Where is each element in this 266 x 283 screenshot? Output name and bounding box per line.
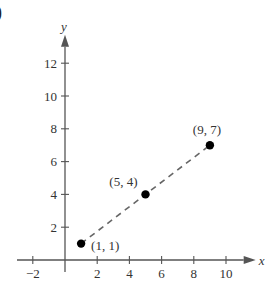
data-point bbox=[141, 190, 149, 198]
point-label: (5, 4) bbox=[109, 174, 137, 189]
x-tick-label: 2 bbox=[94, 266, 101, 281]
y-tick-label: 4 bbox=[51, 187, 58, 202]
point-label: (9, 7) bbox=[193, 122, 221, 137]
y-tick-label: 6 bbox=[51, 154, 58, 169]
x-tick-label: 10 bbox=[220, 266, 233, 281]
x-tick-label: 6 bbox=[158, 266, 165, 281]
y-axis-label: y bbox=[59, 19, 67, 34]
y-tick-label: 10 bbox=[44, 89, 57, 104]
x-tick-label: −2 bbox=[26, 266, 40, 281]
y-tick-label: 12 bbox=[44, 56, 57, 71]
y-tick-label: 2 bbox=[51, 220, 58, 235]
data-point bbox=[206, 141, 214, 149]
point-label: (1, 1) bbox=[91, 238, 119, 253]
x-tick-label: 8 bbox=[191, 266, 198, 281]
x-tick-label: 4 bbox=[126, 266, 133, 281]
scatter-chart: xy−224681024681012(1, 1)(5, 4)(9, 7) bbox=[0, 0, 266, 283]
y-axis-arrow-icon bbox=[61, 35, 69, 47]
x-axis-arrow-icon bbox=[244, 256, 256, 264]
y-tick-label: 8 bbox=[51, 121, 58, 136]
data-point bbox=[77, 239, 85, 247]
x-axis-label: x bbox=[258, 253, 265, 268]
